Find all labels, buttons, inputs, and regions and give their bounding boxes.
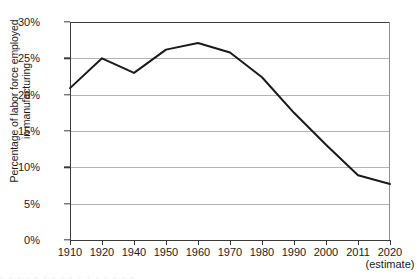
y-tick-label-5%: 5%: [2, 198, 40, 209]
x-tick-mark-2000: [326, 240, 327, 245]
x-tick-mark-1920: [102, 240, 103, 245]
cropped-caption-strip: · · · · · · · · · · · · · · · ·: [0, 272, 414, 279]
x-tick-mark-1970: [230, 240, 231, 245]
y-tick-label-20%: 20%: [2, 89, 40, 100]
x-tick-mark-1980: [262, 240, 263, 245]
y-tick-label-30%: 30%: [2, 17, 40, 28]
x-tick-mark-1950: [166, 240, 167, 245]
y-axis-title-line-2: in manufacturing: [20, 20, 33, 183]
y-axis-title-line-1: Percentage of labor force employed: [8, 20, 21, 183]
x-tick-mark-1910: [70, 240, 71, 245]
series-line-manufacturing-share: [70, 22, 390, 240]
x-tick-mark-1960: [198, 240, 199, 245]
x-tick-note-estimate: (estimate): [350, 258, 419, 270]
y-tick-label-0%: 0%: [2, 235, 40, 246]
x-tick-mark-1940: [134, 240, 135, 245]
x-tick-mark-2011: [358, 240, 359, 245]
x-tick-mark-1990: [294, 240, 295, 245]
x-tick-mark-2020: [390, 240, 391, 245]
y-tick-label-25%: 25%: [2, 53, 40, 64]
y-tick-label-10%: 10%: [2, 162, 40, 173]
y-tick-label-15%: 15%: [2, 126, 40, 137]
x-tick-label-2020: 2020: [370, 246, 410, 258]
